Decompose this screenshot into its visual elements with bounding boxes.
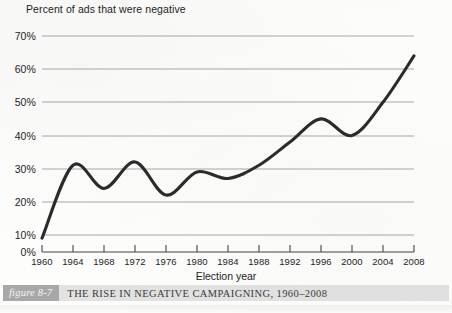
y-tick-label-20: 20% bbox=[2, 196, 36, 208]
y-tick-label-40: 40% bbox=[2, 130, 36, 142]
x-tick-label-1972: 1972 bbox=[118, 256, 152, 267]
x-tick-label-2000: 2000 bbox=[335, 256, 369, 267]
x-tick-label-1976: 1976 bbox=[149, 256, 183, 267]
chart-x-axis-title: Election year bbox=[0, 270, 452, 282]
x-tick-label-1980: 1980 bbox=[180, 256, 214, 267]
y-tick-label-70: 70% bbox=[2, 30, 36, 42]
y-tick-label-60: 60% bbox=[2, 63, 36, 75]
figure-caption-bar: figure 8-7 The Rise in Negative Campaign… bbox=[3, 285, 449, 301]
x-tick-label-2008: 2008 bbox=[397, 256, 431, 267]
x-tick-label-1996: 1996 bbox=[304, 256, 338, 267]
data-series-line bbox=[42, 56, 414, 238]
x-tick-label-1968: 1968 bbox=[87, 256, 121, 267]
page-edge-shadow bbox=[0, 305, 452, 313]
x-axis-line bbox=[42, 245, 414, 252]
x-tick-label-1992: 1992 bbox=[273, 256, 307, 267]
x-tick-label-1988: 1988 bbox=[242, 256, 276, 267]
figure-number-badge: figure 8-7 bbox=[3, 285, 59, 301]
x-tick-label-1964: 1964 bbox=[56, 256, 90, 267]
y-tick-label-50: 50% bbox=[2, 96, 36, 108]
chart-plot-area bbox=[0, 0, 452, 285]
figure-page: Percent of ads that were negative bbox=[0, 0, 452, 313]
y-tick-label-10: 10% bbox=[2, 229, 36, 241]
x-tick-label-2004: 2004 bbox=[366, 256, 400, 267]
figure-caption-text: The Rise in Negative Campaigning, 1960–2… bbox=[67, 288, 327, 299]
gridlines bbox=[42, 36, 414, 235]
x-tick-label-1960: 1960 bbox=[25, 256, 59, 267]
y-tick-label-30: 30% bbox=[2, 163, 36, 175]
x-tick-label-1984: 1984 bbox=[211, 256, 245, 267]
